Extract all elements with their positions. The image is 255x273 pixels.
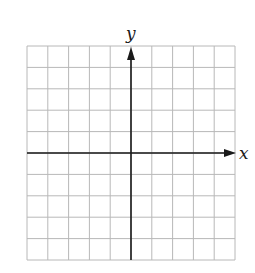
y-axis-label: y [125, 23, 136, 43]
y-axis-arrow-icon [127, 47, 135, 60]
coordinate-plane: x y [0, 0, 255, 273]
x-axis-label: x [239, 143, 249, 163]
x-axis-arrow-icon [224, 149, 236, 157]
